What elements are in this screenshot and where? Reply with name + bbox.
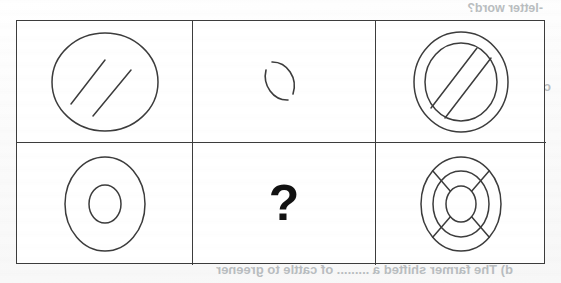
bleedthrough-line-heading: -letter word? [467,2,543,15]
circle-two-diagonal-lines-icon [43,26,167,138]
matrix-puzzle-grid: ? [16,20,545,264]
puzzle-cell-bottom-right[interactable] [376,143,546,265]
puzzle-cell-bottom-left[interactable] [17,143,193,265]
double-circle-two-diagonals-icon [405,26,517,138]
puzzle-cell-top-left[interactable] [17,21,193,143]
question-mark-placeholder: ? [269,178,300,228]
scanned-page: -letter word? c) Write the correct colle… [0,0,561,283]
two-concentric-circles-icon [49,148,161,260]
three-concentric-circles-four-spokes-icon [405,148,517,260]
puzzle-cell-bottom-middle-answer[interactable]: ? [193,143,376,265]
puzzle-cell-top-middle[interactable] [193,21,376,143]
puzzle-cell-top-right[interactable] [376,21,546,143]
broken-circle-arcs-icon [244,42,324,122]
